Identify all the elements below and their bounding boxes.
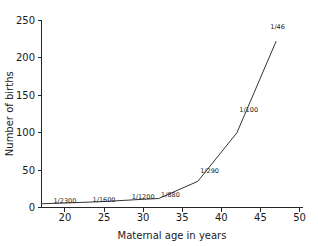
x-tick-group-0: 20 xyxy=(59,208,72,224)
y-tick-label: 50 xyxy=(22,165,35,176)
x-tick-label: 40 xyxy=(215,212,228,223)
curve-annotation: 1/100 xyxy=(239,106,258,114)
curve-annotation: 1/1600 xyxy=(93,196,116,204)
y-tick-label: 100 xyxy=(16,127,35,138)
curve-annotation: 1/46 xyxy=(270,23,285,31)
annotation-layer: 1/23001/16001/12001/8801/2901/1001/46 xyxy=(53,23,284,205)
x-axis: 20 25 30 35 40 45 50 Maternal age in yea… xyxy=(42,208,306,242)
y-tick-group-3: 150 xyxy=(16,90,42,101)
x-tick-group-6: 50 xyxy=(293,208,306,224)
y-tick-label: 250 xyxy=(16,15,35,26)
y-tick-label: 0 xyxy=(29,202,35,213)
y-tick-group-1: 50 xyxy=(22,165,41,176)
x-tick-label: 30 xyxy=(137,212,150,223)
y-tick-label: 150 xyxy=(16,90,35,101)
x-tick-group-3: 35 xyxy=(176,208,189,224)
curve-annotation: 1/880 xyxy=(161,191,180,199)
y-tick-group-0: 0 xyxy=(29,202,42,213)
curve-annotation: 1/290 xyxy=(200,167,219,175)
y-axis-title: Number of births xyxy=(4,71,15,156)
y-axis: 0 50 100 150 200 250 Number of births xyxy=(4,15,42,213)
y-tick-group-4: 200 xyxy=(16,52,42,63)
x-tick-label: 25 xyxy=(98,212,111,223)
x-tick-label: 35 xyxy=(176,212,189,223)
y-tick-label: 200 xyxy=(16,52,35,63)
x-tick-group-4: 40 xyxy=(215,208,228,224)
x-tick-label: 50 xyxy=(293,212,306,223)
y-tick-group-2: 100 xyxy=(16,127,42,138)
x-tick-label: 45 xyxy=(254,212,267,223)
births-curve xyxy=(41,41,276,203)
curve-annotation: 1/1200 xyxy=(132,193,155,201)
x-tick-group-1: 25 xyxy=(98,208,111,224)
curve-annotation: 1/2300 xyxy=(53,197,76,205)
x-tick-label: 20 xyxy=(59,212,72,223)
x-tick-group-5: 45 xyxy=(254,208,267,224)
y-tick-group-5: 250 xyxy=(16,15,42,26)
maternal-age-births-chart: 0 50 100 150 200 250 Number of births 20 xyxy=(0,0,318,246)
x-axis-title: Maternal age in years xyxy=(118,230,227,241)
x-tick-group-2: 30 xyxy=(137,208,150,224)
